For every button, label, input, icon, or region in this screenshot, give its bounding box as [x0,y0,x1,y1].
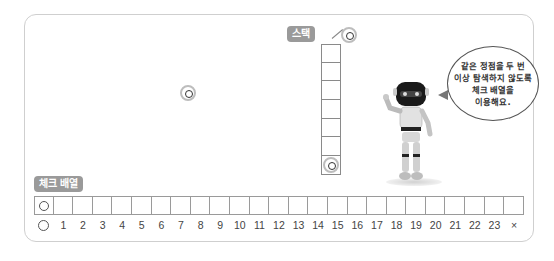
robot-icon [380,78,440,188]
array-cell [308,196,328,215]
index-label: 10 [230,218,250,232]
array-cell [230,196,250,215]
circle-icon [38,220,49,231]
stack-vertex-node [323,157,339,173]
array-cell [328,196,348,215]
stack-cell [321,81,341,100]
array-cell [132,196,152,215]
array-cell [465,196,485,215]
speech-bubble-tail [438,90,448,100]
index-label: 6 [152,218,172,232]
stack-cell [321,44,341,63]
array-cell [348,196,368,215]
speech-line: 이용해요. [475,96,510,108]
array-cell [406,196,426,215]
index-label: 22 [465,218,485,232]
check-array-indices: 1 2 3 4 5 6 7 8 9 10 11 12 13 14 15 16 1… [34,218,524,232]
index-label: 5 [132,218,152,232]
stack [321,44,341,175]
index-label: 1 [54,218,74,232]
index-label: 16 [348,218,368,232]
stack-cell [321,119,341,138]
index-label: 21 [445,218,465,232]
array-cell [367,196,387,215]
stack-label: 스택 [287,26,315,42]
speech-line: 체크 배열을 [472,84,515,96]
speech-bubble: 같은 정점을 두 번 이상 탐색하지 않도록 체크 배열을 이용해요. [447,46,539,121]
index-label: 4 [112,218,132,232]
array-cell [112,196,132,215]
array-cell [152,196,172,215]
index-label: 18 [387,218,407,232]
array-cell [269,196,289,215]
stack-cell [321,100,341,119]
vertex-node [180,85,196,101]
stack-cell [321,137,341,156]
index-label: 2 [73,218,93,232]
index-label: 13 [289,218,309,232]
stack-cell-bottom [321,156,341,175]
index-label: 3 [93,218,113,232]
array-cell [93,196,113,215]
index-label: 15 [328,218,348,232]
index-label: 19 [406,218,426,232]
array-cell [289,196,309,215]
index-label-vertex [34,218,54,232]
index-label: 14 [308,218,328,232]
array-cell [73,196,93,215]
index-label: 7 [171,218,191,232]
index-label: 8 [191,218,211,232]
speech-line: 이상 탐색하지 않도록 [454,72,532,84]
array-cell [387,196,407,215]
array-cell [250,196,270,215]
stack-cell [321,63,341,82]
array-cell [504,196,524,215]
index-label: 17 [367,218,387,232]
index-label: 23 [485,218,505,232]
array-cell [171,196,191,215]
index-label: 12 [269,218,289,232]
array-cell [445,196,465,215]
index-label-x: × [504,218,524,232]
check-array [34,196,524,215]
array-cell [34,196,54,215]
array-cell [54,196,74,215]
index-label: 20 [426,218,446,232]
array-cell [191,196,211,215]
check-array-label: 체크 배열 [34,176,83,192]
index-label: 9 [210,218,230,232]
checked-mark-icon [39,201,49,211]
array-cell [485,196,505,215]
speech-line: 같은 정점을 두 번 [461,60,526,72]
index-label: 11 [250,218,270,232]
array-cell [426,196,446,215]
array-cell [210,196,230,215]
